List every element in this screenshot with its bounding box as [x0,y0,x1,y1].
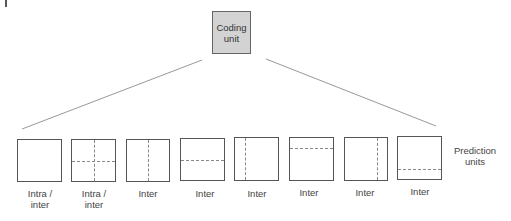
pu-label-nRx2N: Inter [340,187,390,198]
pu-box-2NxN [180,138,225,181]
coding-unit-label-line1: Coding [216,22,246,33]
split-line-vertical [245,138,246,180]
pu-label-line2: inter [69,199,119,210]
pu-label-line1: Inter [232,188,282,199]
pu-label-2NxnU: Inter [284,187,334,198]
split-line-vertical [148,140,149,181]
pu-label-line1: Inter [340,187,390,198]
pu-label-2NxnD: Inter [395,186,445,197]
connector-left [22,60,202,129]
pu-label-line1: Inter [284,187,334,198]
side-label-line2: units [447,156,503,167]
pu-label-nLx2N: Inter [232,188,282,199]
split-line-horizontal [72,161,115,162]
split-line-vertical [377,138,378,180]
pu-box-NxN [71,139,116,182]
pu-label-line1: Intra / [15,188,65,199]
side-label-line1: Prediction [447,145,503,156]
coding-unit-label-line2: unit [216,33,246,44]
pu-box-nLx2N [234,137,279,181]
pu-label-line1: Inter [395,186,445,197]
pu-box-2NxnU [289,137,334,181]
pu-box-Nx2N [126,139,170,182]
pu-label-Nx2N: Inter [123,188,173,199]
pu-label-2Nx2N: Intra / inter [15,188,65,210]
pu-box-nRx2N [344,137,388,181]
diagram-canvas: Coding unit Intra / inter Intra / inter … [0,0,511,221]
split-line-horizontal [181,160,224,161]
pu-label-line1: Intra / [69,188,119,199]
connector-right [266,59,436,126]
prediction-units-label: Prediction units [447,145,503,167]
pu-box-2Nx2N [17,139,62,182]
pu-label-line1: Inter [123,188,173,199]
pu-label-2NxN: Inter [180,188,230,199]
coding-unit-box: Coding unit [212,11,251,54]
pu-box-2NxnD [397,136,442,180]
split-line-horizontal [398,169,441,170]
pu-label-NxN: Intra / inter [69,188,119,210]
pu-label-line1: Inter [180,188,230,199]
split-line-horizontal [290,148,333,149]
pu-label-line2: inter [15,199,65,210]
